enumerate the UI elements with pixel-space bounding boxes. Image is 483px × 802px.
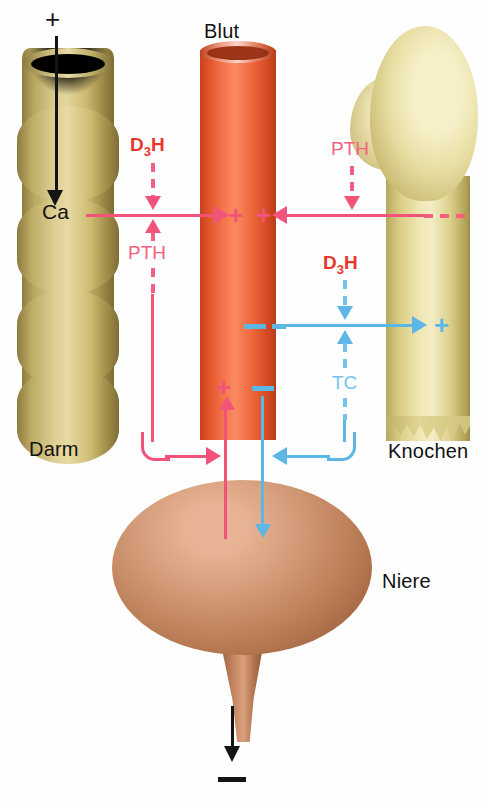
intestine-to-blood-line <box>86 214 218 217</box>
d3h-left-sub: 3 <box>144 144 151 159</box>
bone-plus-sign: + <box>434 312 449 338</box>
blood-vessel-icon <box>200 50 276 440</box>
blood-label: Blut <box>204 20 239 43</box>
tc-stem-lower <box>343 398 347 420</box>
d3h-left-h: H <box>151 134 165 155</box>
bone-label: Knochen <box>388 440 468 463</box>
intake-plus-sign: + <box>45 6 60 32</box>
pth-loop-arrowhead <box>206 447 221 465</box>
bone-minus-sign <box>424 214 466 218</box>
pth-loop-horizontal <box>165 455 211 458</box>
intestine-tube-icon <box>22 48 114 438</box>
d3h-left-d: D <box>130 134 144 155</box>
tc-stem-upper <box>343 343 347 371</box>
calcium-label: Ca <box>42 200 69 224</box>
bone-to-blood-line <box>276 214 428 217</box>
blood-minus-blue-b <box>272 324 286 329</box>
kidney-icon <box>112 480 372 742</box>
blood-to-bone-line <box>276 324 420 327</box>
tc-label: TC <box>332 372 357 394</box>
d3h-left-arrowhead <box>145 196 161 210</box>
kidney-minus-sign <box>252 386 274 391</box>
intestine-to-blood-arrowhead <box>214 206 229 224</box>
blood-to-bone-arrowhead <box>412 316 427 334</box>
d3h-left-label: D3H <box>130 134 165 159</box>
tc-loop-horizontal <box>286 455 330 458</box>
pth-right-label: PTH <box>331 138 369 160</box>
diagram-canvas: + Ca + + D3H PTH PTH + D3H TC + <box>0 0 483 802</box>
d3h-right-label: D3H <box>323 252 358 277</box>
pth-left-arrowhead <box>145 219 161 233</box>
d3h-right-sub: 3 <box>337 262 344 277</box>
pth-left-label: PTH <box>128 242 166 264</box>
blood-to-kidney-line <box>261 396 264 528</box>
excretion-minus-sign <box>218 777 246 782</box>
femur-bone-icon <box>344 26 483 441</box>
kidney-to-blood-line <box>224 409 227 539</box>
d3h-right-d: D <box>323 252 337 273</box>
tc-arrowhead <box>337 330 353 344</box>
blood-plus-right: + <box>256 202 271 228</box>
pth-right-arrowhead <box>344 196 360 210</box>
blood-to-kidney-arrowhead <box>255 524 271 538</box>
pth-left-stem-lower <box>151 268 155 294</box>
d3h-right-h: H <box>344 252 358 273</box>
kidney-label: Niere <box>382 570 431 593</box>
kidney-to-blood-arrowhead <box>219 396 235 410</box>
pth-left-stem-upper <box>151 232 155 246</box>
pth-loop-vertical <box>151 294 154 442</box>
excretion-arrowhead <box>224 746 240 762</box>
intestine-label: Darm <box>29 438 79 461</box>
tc-loop-corner <box>327 432 356 461</box>
blood-plus-left: + <box>228 202 243 228</box>
intake-arrow-line <box>55 36 58 196</box>
d3h-right-arrowhead <box>337 306 353 320</box>
bone-to-blood-arrowhead <box>272 206 287 224</box>
tc-loop-arrowhead <box>272 447 287 465</box>
blood-minus-blue-a <box>244 324 266 329</box>
